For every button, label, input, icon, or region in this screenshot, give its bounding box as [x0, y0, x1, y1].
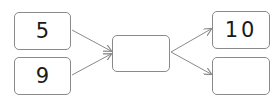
input-box-1: 5 — [14, 12, 71, 50]
input-value-2: 9 — [36, 64, 49, 88]
middle-box[interactable] — [112, 35, 170, 72]
input-box-2: 9 — [14, 57, 71, 95]
arrow-middle-to-output1 — [171, 29, 211, 52]
output-box-2[interactable] — [212, 57, 270, 95]
arrow-input2-to-middle — [72, 54, 111, 75]
input-value-1: 5 — [36, 19, 49, 43]
output-value-1: 10 — [225, 18, 258, 42]
arrow-middle-to-output2 — [171, 52, 211, 74]
arrow-input1-to-middle — [72, 30, 111, 51]
output-box-1: 10 — [212, 11, 270, 49]
